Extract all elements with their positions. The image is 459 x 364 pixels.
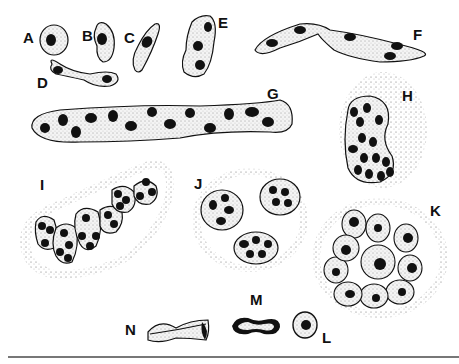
label-j: J: [194, 176, 202, 191]
cell-g: [32, 100, 292, 142]
label-h: H: [402, 88, 413, 103]
cell-drawing: [0, 0, 459, 364]
cluster-k: [312, 198, 448, 318]
label-g: G: [267, 86, 279, 101]
cell-e: [182, 16, 215, 77]
label-i: I: [40, 177, 44, 192]
cell-l: [293, 312, 317, 338]
label-c: C: [124, 30, 135, 45]
bottom-rule: [8, 356, 459, 358]
label-l: L: [322, 330, 331, 345]
label-d: D: [37, 75, 48, 90]
label-k: K: [430, 203, 441, 218]
cell-f: [255, 24, 426, 62]
cell-c: [133, 24, 159, 72]
label-m: M: [250, 292, 263, 307]
label-f: F: [413, 27, 422, 42]
cell-d: [51, 60, 118, 86]
cell-b: [94, 23, 114, 62]
cell-illustration: A B C D E F G H I J K M N L: [0, 0, 459, 364]
cell-m: [232, 318, 280, 335]
cell-h: [339, 72, 427, 188]
label-e: E: [218, 15, 228, 30]
cell-a: [40, 25, 68, 55]
cell-n: [148, 320, 209, 342]
label-a: A: [23, 30, 34, 45]
label-n: N: [125, 322, 136, 337]
label-b: B: [82, 28, 93, 43]
cluster-j: [192, 168, 308, 272]
